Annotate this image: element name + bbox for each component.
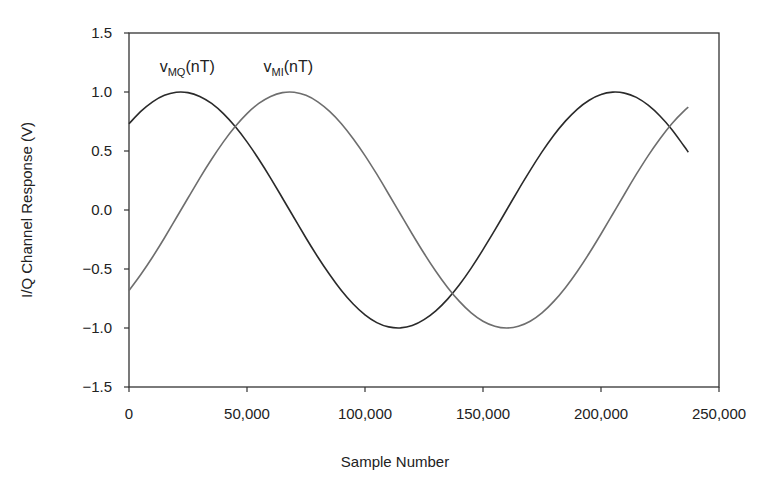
y-tick-label: 0.0	[91, 201, 112, 218]
y-tick-label: 1.5	[91, 24, 112, 41]
x-axis: 050,000100,000150,000200,000250,000	[125, 387, 746, 422]
y-tick-label: −1.5	[82, 378, 112, 395]
y-tick-label: 1.0	[91, 83, 112, 100]
plot-frame	[129, 33, 719, 387]
x-tick-label: 100,000	[338, 405, 392, 422]
x-tick-label: 50,000	[224, 405, 270, 422]
y-tick-label: −0.5	[82, 260, 112, 277]
series-line-mi	[129, 92, 688, 328]
x-tick-label: 250,000	[692, 405, 746, 422]
x-axis-title: Sample Number	[341, 453, 449, 470]
y-axis-title: I/Q Channel Response (V)	[18, 122, 35, 298]
series-label-mi: vMI(nT)	[264, 58, 314, 78]
x-tick-label: 150,000	[456, 405, 510, 422]
x-tick-label: 200,000	[574, 405, 628, 422]
y-tick-label: −1.0	[82, 319, 112, 336]
y-axis: 1.51.00.50.0−0.5−1.0−1.5	[82, 24, 129, 395]
series-line-mq	[129, 92, 688, 328]
series-labels: vMQ(nT)vMI(nT)	[160, 58, 313, 78]
plot-area-border	[129, 33, 719, 387]
series-layer	[129, 92, 688, 328]
y-tick-label: 0.5	[91, 142, 112, 159]
series-label-mq: vMQ(nT)	[160, 58, 215, 78]
chart: 1.51.00.50.0−0.5−1.0−1.5 050,000100,0001…	[0, 0, 782, 494]
x-tick-label: 0	[125, 405, 133, 422]
